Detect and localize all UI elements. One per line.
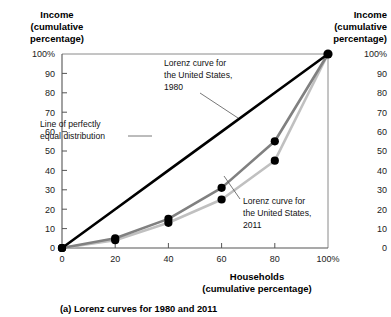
x-axis-tick-labels: 020406080100% — [59, 254, 339, 264]
y-axis-ticks — [62, 73, 67, 228]
y-tick-label: 10 — [45, 224, 55, 234]
data-point-origin — [58, 244, 66, 252]
x-tick-label: 40 — [163, 254, 173, 264]
y-tick-label: 80 — [45, 88, 55, 98]
y-tick-label: 0 — [50, 243, 55, 253]
left-axis-title: Income (cumulative percentage) — [30, 9, 84, 44]
figure-caption: (a) Lorenz curves for 1980 and 2011 — [60, 304, 217, 314]
annotation-lorenz-2011-line3: 2011 — [243, 220, 262, 230]
y-tick-label: 50 — [45, 146, 55, 156]
series-line — [62, 54, 328, 248]
left-axis-title-line3: percentage) — [30, 33, 84, 44]
data-point — [111, 234, 119, 242]
y-tick-label-right: 0 — [382, 243, 387, 253]
y-tick-label: 20 — [45, 205, 55, 215]
annotation-lorenz-1980: Lorenz curve for the United States, 1980 — [164, 58, 238, 118]
y-tick-label: 100% — [32, 49, 55, 59]
y-tick-label-right: 50 — [377, 146, 387, 156]
y-tick-label-right: 40 — [377, 166, 387, 176]
annotation-lorenz-1980-leader — [200, 93, 238, 118]
annotation-lorenz-2011: Lorenz curve for the United States, 2011 — [224, 176, 311, 230]
left-axis-title-line1: Income — [40, 9, 73, 20]
right-axis-title-line2: (cumulative — [334, 21, 387, 32]
x-tick-label: 80 — [270, 254, 280, 264]
y-tick-label-right: 100% — [364, 49, 387, 59]
y-tick-label-right: 90 — [377, 69, 387, 79]
y-tick-label: 70 — [45, 108, 55, 118]
annotation-equal-line: Line of perfectly equal distribution — [40, 119, 152, 141]
x-tick-label: 20 — [110, 254, 120, 264]
y-tick-label-right: 30 — [377, 185, 387, 195]
annotation-lorenz-1980-line3: 1980 — [164, 82, 183, 92]
data-point — [218, 195, 226, 203]
left-axis-title-line2: (cumulative — [31, 21, 84, 32]
y-tick-label-right: 80 — [377, 88, 387, 98]
y-tick-label-right: 20 — [377, 205, 387, 215]
annotation-lorenz-1980-line2: the United States, — [164, 70, 232, 80]
x-axis-ticks — [115, 243, 275, 248]
y-tick-label: 30 — [45, 185, 55, 195]
lorenz-curve-figure: Income (cumulative percentage) Income (c… — [0, 0, 391, 317]
bottom-axis-title: Households (cumulative percentage) — [202, 271, 311, 294]
annotation-equal-line-line1: Line of perfectly — [40, 119, 101, 129]
annotation-lorenz-1980-line1: Lorenz curve for — [164, 58, 226, 68]
annotation-lorenz-2011-line1: Lorenz curve for — [243, 196, 305, 206]
data-point-max — [323, 49, 332, 58]
data-point — [218, 184, 226, 192]
data-point — [271, 157, 279, 165]
x-tick-label: 100% — [316, 254, 339, 264]
y-tick-label: 90 — [45, 69, 55, 79]
x-tick-label: 60 — [217, 254, 227, 264]
y-axis-right-tick-labels: 0102030405060708090100% — [364, 49, 387, 253]
y-tick-label: 40 — [45, 166, 55, 176]
y-axis-tick-labels: 0102030405060708090100% — [32, 49, 55, 253]
right-axis-title-line1: Income — [354, 9, 387, 20]
y-tick-label-right: 70 — [377, 108, 387, 118]
y-tick-label-right: 10 — [377, 224, 387, 234]
annotation-lorenz-2011-line2: the United States, — [243, 208, 311, 218]
x-tick-label: 0 — [59, 254, 64, 264]
right-axis-title: Income (cumulative percentage) — [333, 9, 387, 44]
y-tick-label-right: 60 — [377, 127, 387, 137]
right-axis-title-line3: percentage) — [333, 33, 387, 44]
annotation-equal-line-line2: equal distribution — [40, 131, 105, 141]
data-point — [271, 137, 279, 145]
bottom-axis-title-line2: (cumulative percentage) — [202, 283, 311, 294]
bottom-axis-title-line1: Households — [230, 271, 284, 282]
data-point — [164, 215, 172, 223]
